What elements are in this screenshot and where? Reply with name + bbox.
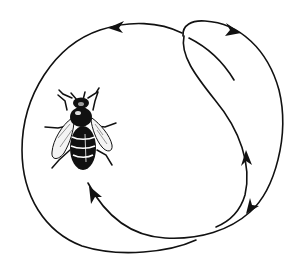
arrow-right-lower: [246, 198, 259, 214]
bee-illustration: [45, 88, 116, 170]
inner-return-path: [183, 36, 247, 227]
diagram-canvas: [0, 0, 302, 278]
arrow-top-right: [225, 23, 241, 36]
round-dance-diagram: Honeybee round dance: [0, 0, 302, 278]
arrow-top-left: [108, 21, 124, 33]
